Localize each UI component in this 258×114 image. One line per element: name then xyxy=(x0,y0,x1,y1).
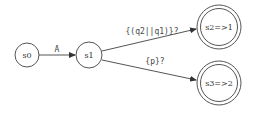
edge-s0-s1: A xyxy=(39,45,75,55)
node-s0: s0 xyxy=(15,43,39,67)
edge-label-s1-s2: {(q2||q1)}? xyxy=(126,27,179,36)
node-s3-accepting: s3=>2 xyxy=(197,61,241,105)
state-diagram: A {(q2||q1)}? {p}? s0 s1 s2=>1 s3=>2 xyxy=(0,0,258,114)
node-label-s2: s2=>1 xyxy=(205,23,233,32)
edge-s1-s3: {p}? xyxy=(102,57,196,80)
edge-label-s1-s3: {p}? xyxy=(145,57,164,66)
node-label-s3: s3=>2 xyxy=(205,79,233,88)
diagram-svg: A {(q2||q1)}? {p}? s0 s1 s2=>1 s3=>2 xyxy=(0,0,258,114)
edge-s1-s2: {(q2||q1)}? xyxy=(102,27,196,51)
node-label-s0: s0 xyxy=(22,51,31,60)
node-s2-accepting: s2=>1 xyxy=(197,5,241,49)
node-s1: s1 xyxy=(76,42,102,68)
node-label-s1: s1 xyxy=(84,51,93,60)
edge-label-s0-s1: A xyxy=(55,45,60,54)
